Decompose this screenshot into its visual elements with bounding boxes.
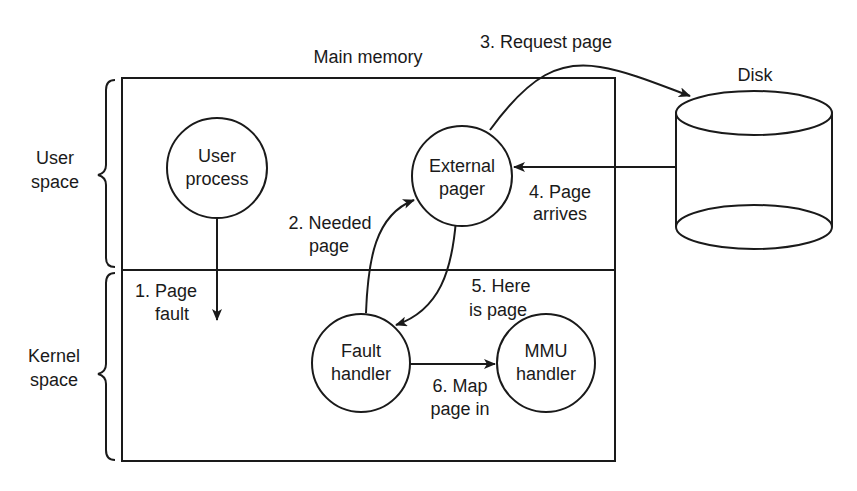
step3-label: 3. Request page bbox=[480, 32, 612, 52]
step5-label-line1: 5. Here bbox=[471, 276, 530, 296]
user-process-node: User process bbox=[167, 118, 267, 218]
disk-label: Disk bbox=[738, 65, 774, 85]
mmu-handler-node: MMU handler bbox=[497, 314, 595, 412]
step1-label-line2: fault bbox=[155, 304, 189, 324]
step2-label-line1: 2. Needed bbox=[288, 213, 371, 233]
user-space-label-line1: User bbox=[36, 148, 74, 168]
request-page-arrow bbox=[490, 65, 690, 130]
here-is-page-arrow bbox=[396, 220, 456, 325]
fault-handler-label-line1: Fault bbox=[341, 341, 381, 361]
needed-page-arrow bbox=[366, 200, 414, 313]
step6-label-line2: page in bbox=[430, 399, 489, 419]
disk-cylinder bbox=[676, 91, 832, 249]
external-pager-node: External pager bbox=[412, 126, 512, 226]
fault-handler-label-line2: handler bbox=[331, 364, 391, 384]
fault-handler-node: Fault handler bbox=[312, 314, 410, 412]
user-process-label-line2: process bbox=[185, 169, 248, 189]
step6-label-line1: 6. Map bbox=[432, 376, 487, 396]
step1-label-line1: 1. Page bbox=[135, 281, 197, 301]
kernel-space-label-line1: Kernel bbox=[28, 346, 80, 366]
user-space-label-line2: space bbox=[31, 172, 79, 192]
user-process-label-line1: User bbox=[198, 146, 236, 166]
step4-label-line2: arrives bbox=[533, 204, 587, 224]
step5-label-line2: is page bbox=[469, 300, 527, 320]
main-memory-title: Main memory bbox=[313, 47, 422, 67]
external-pager-label-line1: External bbox=[429, 156, 495, 176]
mmu-handler-label-line1: MMU bbox=[525, 341, 568, 361]
user-space-brace bbox=[98, 80, 115, 267]
step2-label-line2: page bbox=[309, 236, 349, 256]
mmu-handler-label-line2: handler bbox=[516, 364, 576, 384]
step4-label-line1: 4. Page bbox=[529, 182, 591, 202]
external-pager-diagram: Main memory User space Kernel space User… bbox=[0, 0, 857, 491]
kernel-space-brace bbox=[98, 273, 115, 460]
external-pager-label-line2: pager bbox=[439, 179, 485, 199]
kernel-space-label-line2: space bbox=[30, 370, 78, 390]
